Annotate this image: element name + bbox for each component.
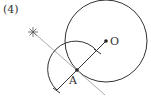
point-a (75, 68, 79, 72)
problem-number: (4) (3, 3, 19, 16)
star-mark-icon (28, 27, 38, 37)
label-o: O (110, 35, 119, 48)
point-o (104, 39, 108, 43)
geometry-diagram: (4) O A (0, 0, 151, 97)
radius-line-ao (57, 41, 106, 90)
label-a: A (68, 74, 78, 87)
